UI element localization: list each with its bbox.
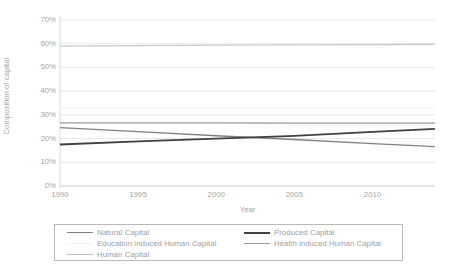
legend-label: Health induced Human Capital <box>274 239 381 248</box>
legend-rows: Natural CapitalProduced CapitalEducation… <box>55 225 402 260</box>
legend-row: Human Capital <box>55 249 402 260</box>
legend-item[interactable]: Human Capital <box>55 249 234 260</box>
x-tick-label: 1990 <box>40 190 80 199</box>
legend-swatch-line-icon <box>67 232 93 233</box>
x-tick-label: 2010 <box>353 190 393 199</box>
legend-item-empty <box>234 249 402 260</box>
legend: Natural CapitalProduced CapitalEducation… <box>54 224 403 261</box>
legend-row: Education induced Human CapitalHealth in… <box>55 238 402 249</box>
series-lines <box>60 44 435 146</box>
legend-swatch-line-icon <box>67 254 93 255</box>
legend-label: Human Capital <box>97 250 149 259</box>
legend-row: Natural CapitalProduced Capital <box>55 227 402 238</box>
legend-label: Education induced Human Capital <box>97 239 216 248</box>
legend-item[interactable]: Natural Capital <box>55 227 234 238</box>
x-axis-title: Year <box>60 205 435 214</box>
legend-item[interactable]: Produced Capital <box>234 227 402 238</box>
legend-swatch-line-icon <box>244 243 270 244</box>
legend-label: Natural Capital <box>97 228 149 237</box>
x-tick-label: 2005 <box>274 190 314 199</box>
x-tick-label: 2000 <box>196 190 236 199</box>
legend-label: Produced Capital <box>274 228 335 237</box>
legend-swatch-line-icon <box>67 243 93 244</box>
line-chart: Composition of capital 0%10%20%30%40%50%… <box>0 0 458 275</box>
legend-item[interactable]: Education induced Human Capital <box>55 238 234 249</box>
x-tick-label: 1995 <box>118 190 158 199</box>
legend-swatch-line-icon <box>244 232 270 234</box>
legend-item[interactable]: Health induced Human Capital <box>234 238 402 249</box>
series-line <box>60 44 435 46</box>
